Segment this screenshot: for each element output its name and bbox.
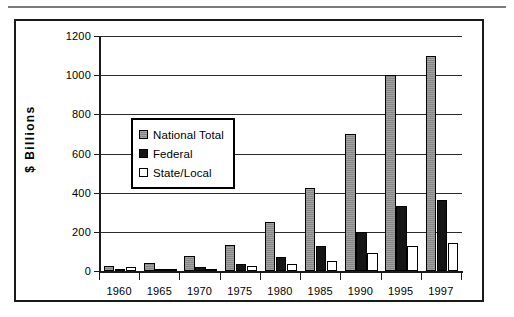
bar[interactable] [448,243,459,271]
bar[interactable] [265,222,276,271]
x-axis-tick [381,273,382,280]
legend-item[interactable]: State/Local [139,163,224,182]
y-axis-tick [94,271,100,272]
x-axis-tick [461,273,462,280]
x-axis-tick-label: 1970 [187,285,212,297]
bar[interactable] [396,206,407,271]
x-axis-tick [300,273,301,280]
legend-swatch-icon [139,149,148,158]
bar[interactable] [367,253,378,271]
y-axis-tick-label: 400 [72,187,91,199]
bar-group [301,36,341,271]
x-axis-tick [99,273,100,280]
x-axis-tick-label: 1980 [267,285,292,297]
y-axis-title: $ Billions [23,105,37,172]
bar[interactable] [236,264,247,271]
bar[interactable] [155,269,166,271]
bar[interactable] [144,263,155,271]
x-axis-tick-label: 1997 [428,285,453,297]
bar[interactable] [206,269,217,271]
bar[interactable] [407,246,418,271]
x-axis-tick-label: 1960 [106,285,131,297]
legend-swatch-icon [139,130,148,139]
bar[interactable] [287,264,298,271]
bar[interactable] [115,269,126,271]
legend-item-label: State/Local [153,167,212,179]
plot-area: 020040060080010001200 National TotalFede… [100,36,462,271]
bar-group [382,36,422,271]
figure-container: $ Billions 020040060080010001200 Nationa… [0,0,514,317]
y-axis-tick-label: 0 [85,265,91,277]
x-axis-tick-label: 1990 [348,285,373,297]
bar-group [422,36,462,271]
x-axis-tick [340,273,341,280]
y-axis-tick-label: 200 [72,226,91,238]
bar[interactable] [316,246,327,271]
bar[interactable] [276,257,287,271]
bar[interactable] [195,267,206,271]
y-axis-tick-label: 600 [72,148,91,160]
x-axis-labels: 196019651970197519801985199019951997 [99,273,463,303]
legend-item-label: Federal [153,148,193,160]
bar[interactable] [426,56,437,271]
y-axis-tick-label: 1000 [66,69,91,81]
bar[interactable] [184,256,195,271]
bar[interactable] [437,200,448,271]
bar[interactable] [225,245,236,271]
bar[interactable] [247,266,258,271]
y-axis-tick-label: 800 [72,108,91,120]
bar[interactable] [345,134,356,271]
x-axis-tick [179,273,180,280]
x-axis-tick-label: 1975 [227,285,252,297]
y-axis-tick-label: 1200 [66,30,91,42]
x-axis-tick [260,273,261,280]
x-axis-tick [421,273,422,280]
bar-group [341,36,381,271]
bar[interactable] [356,232,367,271]
bar[interactable] [385,75,396,271]
bar[interactable] [327,261,338,271]
bar-group [261,36,301,271]
chart-frame: $ Billions 020040060080010001200 Nationa… [14,19,484,302]
bar[interactable] [126,267,137,271]
chart-legend: National TotalFederalState/Local [131,118,235,189]
legend-swatch-icon [139,168,148,177]
x-axis-tick-label: 1985 [308,285,333,297]
x-axis-tick-label: 1965 [147,285,172,297]
legend-item[interactable]: National Total [139,125,224,144]
legend-item-label: National Total [153,129,224,141]
top-horizontal-rule [8,6,506,8]
x-axis-tick-label: 1995 [388,285,413,297]
x-axis-tick [139,273,140,280]
x-axis-tick [220,273,221,280]
bar[interactable] [104,266,115,271]
bar[interactable] [166,269,177,271]
bar[interactable] [305,188,316,271]
legend-item[interactable]: Federal [139,144,224,163]
